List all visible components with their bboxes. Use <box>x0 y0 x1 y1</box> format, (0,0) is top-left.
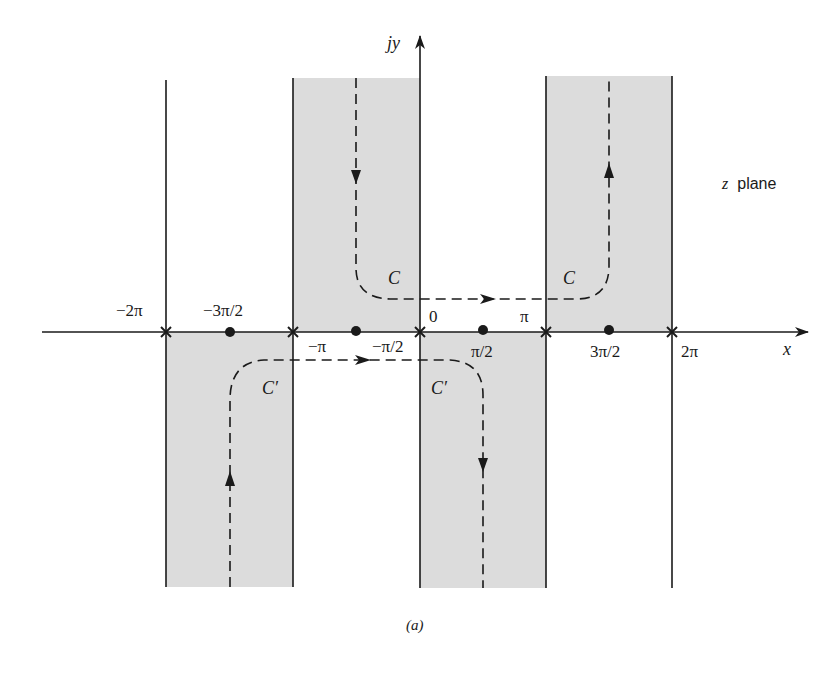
x-axis-label: x <box>782 339 791 359</box>
tick-label-3pi-2: 3π/2 <box>590 342 620 361</box>
zero-dot-icon <box>351 326 361 336</box>
contour-label-c-left: C <box>388 268 401 288</box>
tick-label-neg-3pi-2: −3π/2 <box>203 301 243 320</box>
y-axis-label: jy <box>385 33 400 53</box>
tick-label-2pi: 2π <box>681 342 699 361</box>
zero-dot-icon <box>478 325 488 335</box>
figure-caption: (a) <box>406 617 424 634</box>
contour-label-c-right: C <box>563 268 576 288</box>
plane-label-var: z <box>721 175 729 192</box>
zero-dot-icon <box>604 325 614 335</box>
plane-label-word: plane <box>737 175 776 192</box>
tick-label-zero: 0 <box>429 307 438 326</box>
tick-label-pi-2: π/2 <box>471 342 493 361</box>
tick-label-neg-pi-2: −π/2 <box>372 337 403 356</box>
zero-dot-icon <box>225 327 235 337</box>
contour-label-c-prime-right: C′ <box>431 378 448 398</box>
tick-label-neg-2pi: −2π <box>116 301 143 320</box>
z-plane-diagram: −2π −3π/2 −π −π/2 0 π/2 π 3π/2 2π x jy C… <box>0 0 834 676</box>
arrow-right-icon <box>480 294 496 304</box>
contour-label-c-prime-left: C′ <box>262 378 279 398</box>
tick-label-pi: π <box>520 307 529 326</box>
tick-label-neg-pi: −π <box>308 337 327 356</box>
plane-label: z plane <box>721 175 776 192</box>
